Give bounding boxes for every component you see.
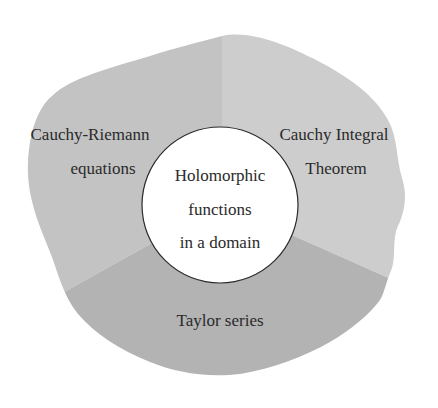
label-cauchy-integral-line2: Theorem <box>305 160 366 177</box>
label-center-line2: functions <box>188 201 251 218</box>
label-cauchy-integral-line1: Cauchy Integral <box>279 126 388 143</box>
label-cauchy-riemann-line2: equations <box>70 160 135 177</box>
label-cauchy-riemann-line1: Cauchy-Riemann <box>31 126 150 143</box>
label-center-line3: in a domain <box>180 234 260 251</box>
label-taylor-series: Taylor series <box>176 312 263 329</box>
label-center-line1: Holomorphic <box>175 167 266 184</box>
